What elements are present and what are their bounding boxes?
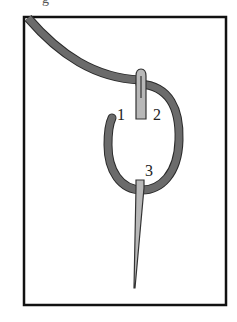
diagram-frame xyxy=(24,17,226,305)
stitch-diagram: 1 2 3 xyxy=(0,0,237,322)
label-3: 3 xyxy=(145,162,153,179)
needle-eye-end xyxy=(136,69,146,119)
label-2: 2 xyxy=(153,106,161,123)
label-1: 1 xyxy=(117,106,125,123)
